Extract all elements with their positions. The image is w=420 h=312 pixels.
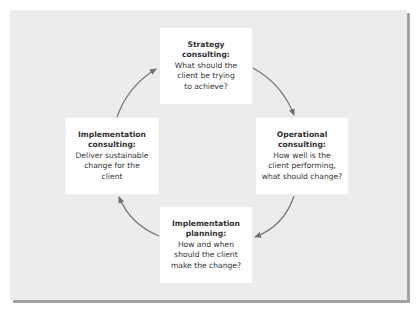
node-implementation-planning: Implementation planning: How and when sh… bbox=[160, 207, 252, 283]
arrow-implementation-to-strategy bbox=[117, 69, 156, 117]
node-operational-consulting: Operational consulting: How well is the … bbox=[256, 118, 348, 194]
node-body-line: client bbox=[102, 172, 123, 183]
node-body-line: make the change? bbox=[171, 261, 241, 272]
node-title-line: Implementation bbox=[172, 219, 240, 230]
node-body-line: Deliver sustainable bbox=[76, 151, 149, 162]
node-title-line: consulting: bbox=[182, 50, 230, 61]
node-strategy-consulting: Strategy consulting: What should the cli… bbox=[160, 28, 252, 104]
node-title-line: consulting: bbox=[88, 140, 136, 151]
node-body-line: client be trying bbox=[177, 71, 235, 82]
node-body-line: change for the bbox=[84, 161, 140, 172]
node-body-line: How well is the bbox=[273, 151, 330, 162]
node-body-line: client performing, bbox=[268, 161, 336, 172]
node-body-line: to achieve? bbox=[184, 82, 228, 93]
node-implementation-consulting: Implementation consulting: Deliver susta… bbox=[66, 118, 158, 194]
node-title-line: Implementation bbox=[78, 130, 146, 141]
node-title-line: consulting: bbox=[278, 140, 326, 151]
arrow-planning-to-implementation bbox=[119, 197, 159, 236]
node-title-line: planning: bbox=[186, 229, 226, 240]
arrow-strategy-to-operational bbox=[253, 68, 294, 115]
node-title-line: Operational bbox=[277, 130, 328, 141]
node-title-line: Strategy bbox=[187, 40, 224, 51]
node-body-line: should the client bbox=[174, 250, 237, 261]
node-body-line: How and when bbox=[178, 240, 234, 251]
arrow-operational-to-planning bbox=[255, 196, 294, 237]
node-body-line: what should change? bbox=[262, 172, 343, 183]
node-body-line: What should the bbox=[175, 61, 237, 72]
